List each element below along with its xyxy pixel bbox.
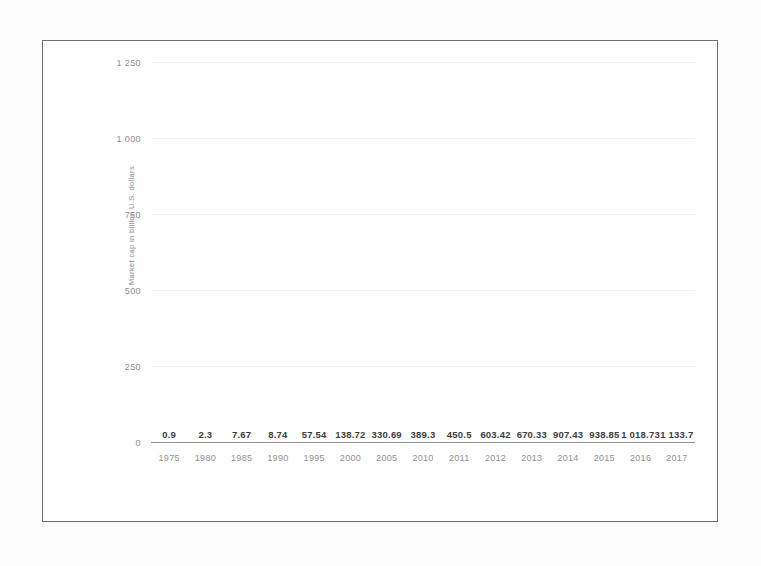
bar-value-label: 603.42 [480,429,510,440]
bar-slot[interactable]: 907.43 [550,63,586,443]
x-axis-tick-label: 2014 [550,453,586,469]
bar-slot[interactable]: 0.9 [151,63,187,443]
axis-baseline [151,442,695,443]
bar-value-label: 7.67 [232,429,251,440]
bar-chart: Market cap in billion U.S. dollars 0.92.… [43,41,717,521]
bar-slot[interactable]: 7.67 [224,63,260,443]
figure-frame: Market cap in billion U.S. dollars 0.92.… [42,40,718,522]
bar-slot[interactable]: 670.33 [514,63,550,443]
bar-slot[interactable]: 330.69 [369,63,405,443]
bar-slot[interactable]: 938.85 [586,63,622,443]
page-background: Market cap in billion U.S. dollars 0.92.… [0,0,761,566]
bar-value-label: 330.69 [372,429,402,440]
x-axis-tick-label: 2012 [477,453,513,469]
bar-slot[interactable]: 603.42 [477,63,513,443]
y-axis-tick-label: 0 [136,438,141,448]
x-axis-tick-label: 2011 [441,453,477,469]
bar-value-label: 938.85 [589,429,619,440]
bar-value-label: 1 018.73 [621,429,660,440]
x-axis-tick-label: 2000 [332,453,368,469]
x-axis-tick-label: 2015 [586,453,622,469]
bar-value-label: 389.3 [411,429,436,440]
bar-value-label: 0.9 [162,429,176,440]
gridline [151,138,695,139]
bar-value-label: 1 133.7 [660,429,693,440]
plot-area: 0.92.37.678.7457.54138.72330.69389.3450.… [151,63,695,443]
x-axis-tick-label: 2005 [369,453,405,469]
x-axis-tick-label: 2016 [622,453,658,469]
x-axis-tick-label: 2017 [659,453,695,469]
bar-slot[interactable]: 389.3 [405,63,441,443]
bar-slot[interactable]: 57.54 [296,63,332,443]
bar-slot[interactable]: 2.3 [187,63,223,443]
bar-value-label: 670.33 [517,429,547,440]
gridline [151,214,695,215]
y-axis-tick-label: 250 [125,362,141,372]
x-axis-tick-label: 2010 [405,453,441,469]
x-axis-tick-label: 1985 [224,453,260,469]
bar-value-label: 57.54 [302,429,327,440]
x-axis-ticks: 1975198019851990199520002005201020112012… [151,453,695,469]
bar-series: 0.92.37.678.7457.54138.72330.69389.3450.… [151,63,695,443]
bar-value-label: 138.72 [335,429,365,440]
x-axis-tick-label: 1990 [260,453,296,469]
y-axis-tick-label: 500 [125,286,141,296]
bar-value-label: 8.74 [268,429,287,440]
x-axis-tick-label: 2013 [514,453,550,469]
bar-slot[interactable]: 138.72 [332,63,368,443]
bar-slot[interactable]: 450.5 [441,63,477,443]
gridline [151,290,695,291]
x-axis-tick-label: 1995 [296,453,332,469]
bar-slot[interactable]: 1 133.7 [659,63,695,443]
bar-slot[interactable]: 8.74 [260,63,296,443]
bar-value-label: 907.43 [553,429,583,440]
gridline [151,366,695,367]
y-axis-tick-label: 1 250 [116,58,141,68]
gridline [151,62,695,63]
y-axis-tick-label: 750 [125,210,141,220]
bar-value-label: 450.5 [447,429,472,440]
bar-slot[interactable]: 1 018.73 [622,63,658,443]
bar-value-label: 2.3 [198,429,212,440]
x-axis-tick-label: 1980 [187,453,223,469]
y-axis-tick-label: 1 000 [116,134,141,144]
x-axis-tick-label: 1975 [151,453,187,469]
